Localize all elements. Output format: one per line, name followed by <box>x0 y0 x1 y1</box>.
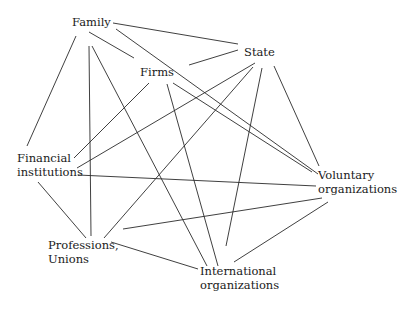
node-state: State <box>244 45 275 59</box>
edge-firms-state <box>189 50 238 65</box>
edge-family-voluntary <box>116 29 318 174</box>
edge-professions-international <box>111 242 198 269</box>
node-financial: Financialinstitutions <box>17 151 83 179</box>
edge-financial-professions <box>38 182 86 238</box>
network-diagram: FamilyStateFirmsFinancialinstitutionsVol… <box>0 0 400 309</box>
edge-financial-voluntary <box>78 175 316 186</box>
node-voluntary: Voluntaryorganizations <box>318 168 397 196</box>
node-label-line: organizations <box>318 182 397 196</box>
node-label-line: organizations <box>200 278 279 292</box>
edge-international-voluntary <box>234 202 328 262</box>
node-label-line: Voluntary <box>318 168 397 182</box>
node-label-line: State <box>244 45 275 59</box>
edge-firms-voluntary <box>173 83 312 172</box>
node-label-line: Professions, <box>48 238 119 252</box>
node-label-line: Firms <box>140 65 174 79</box>
node-family: Family <box>72 15 111 29</box>
node-professions: Professions,Unions <box>48 238 119 266</box>
node-label-line: Financial <box>17 151 83 165</box>
edge-state-international <box>226 68 262 246</box>
edge-family-financial <box>27 36 76 146</box>
node-label-line: Unions <box>48 252 119 266</box>
node-international: Internationalorganizations <box>200 264 279 292</box>
edge-family-international <box>92 46 207 266</box>
node-firms: Firms <box>140 65 174 79</box>
node-label-line: International <box>200 264 279 278</box>
node-label-line: institutions <box>17 165 83 179</box>
edge-firms-financial <box>74 83 149 158</box>
node-label-line: Family <box>72 15 111 29</box>
edge-state-voluntary <box>274 66 319 166</box>
